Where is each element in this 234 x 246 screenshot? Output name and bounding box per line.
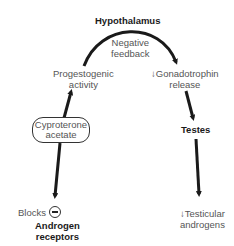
blocks-label: Blocks (18, 207, 46, 218)
cyproterone-acetate-node: Cyproterone acetate (32, 117, 90, 143)
receptors-line1: Androgen (35, 220, 80, 231)
androgen-receptors-label: Androgen receptors (35, 220, 80, 242)
drug-to-receptors-arrow (55, 143, 60, 196)
testicular-line1: ↓Testicular (180, 208, 225, 219)
gonadotrophin-line1: ↓Gonadotrophin (151, 68, 219, 79)
testicular-androgens-label: ↓Testicular androgens (180, 208, 225, 230)
minus-circle-icon (49, 206, 61, 218)
gonadotrophin-to-testes-arrow (186, 91, 193, 118)
progestogenic-line2: activity (53, 79, 114, 90)
gonadotrophin-release-label: ↓Gonadotrophin release (151, 68, 219, 90)
cyproterone-mechanism-diagram: Hypothalamus Negative feedback Progestog… (0, 0, 234, 246)
testes-to-androgens-arrow (196, 139, 199, 194)
drug-to-progestogenic-arrow (64, 92, 71, 118)
progestogenic-activity-label: Progestogenic activity (53, 68, 114, 90)
drug-line2: acetate (35, 130, 87, 140)
gonadotrophin-line2: release (151, 79, 219, 90)
negative-feedback-label: Negative feedback (111, 37, 150, 59)
testes-label: Testes (181, 124, 210, 135)
progestogenic-line1: Progestogenic (53, 68, 114, 79)
negative-feedback-line1: Negative (111, 37, 150, 48)
receptors-line2: receptors (35, 231, 80, 242)
testicular-line2: androgens (180, 219, 225, 230)
hypothalamus-label: Hypothalamus (95, 15, 160, 26)
negative-feedback-line2: feedback (111, 48, 150, 59)
